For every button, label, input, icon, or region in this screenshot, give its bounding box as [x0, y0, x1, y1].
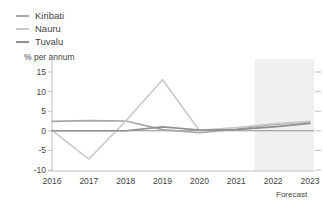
- y-tick-label: 10: [20, 87, 46, 97]
- y-tick-label: -5: [20, 145, 46, 155]
- x-tick-label: 2018: [109, 176, 143, 186]
- plot-area: [0, 0, 323, 203]
- x-tick-label: 2020: [182, 176, 216, 186]
- forecast-band: [255, 59, 314, 171]
- chart-container: Kiribati Nauru Tuvalu % per annum 151050…: [0, 0, 323, 203]
- x-tick-label: 2019: [146, 176, 180, 186]
- x-tick-label: 2016: [35, 176, 69, 186]
- x-tick-label: 2022: [256, 176, 290, 186]
- y-tick-label: 0: [20, 126, 46, 136]
- y-tick-label: 15: [20, 67, 46, 77]
- x-tick-label: 2023: [293, 176, 323, 186]
- x-tick-label: 2021: [219, 176, 253, 186]
- x-tick-label: 2017: [72, 176, 106, 186]
- forecast-band-rect: [255, 59, 314, 171]
- forecast-annotation-label: Forecast: [262, 190, 322, 199]
- y-tick-label: 5: [20, 106, 46, 116]
- y-tick-label: -10: [20, 165, 46, 175]
